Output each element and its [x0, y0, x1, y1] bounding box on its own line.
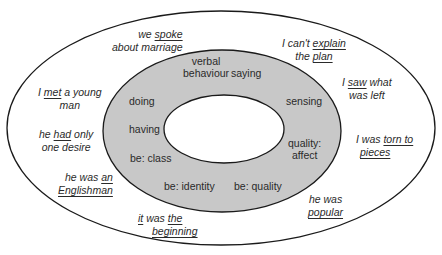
label-saying: saying [231, 67, 261, 79]
label-line: having [129, 123, 160, 135]
participant-word: beginning [152, 225, 198, 237]
process-word: torn to [383, 133, 413, 145]
label-line: sensing [286, 95, 322, 107]
label-line: doing [129, 95, 155, 107]
text: one desire [42, 141, 91, 153]
participant-word: Englishman [58, 184, 113, 196]
text: only [71, 128, 93, 140]
text: he [39, 128, 54, 140]
inner-core [164, 95, 284, 163]
label-line: saying [231, 67, 261, 79]
text: was [143, 212, 168, 224]
text: what [367, 76, 392, 88]
text: the [295, 50, 313, 62]
text: was left [349, 89, 385, 101]
label-line: be: identity [164, 180, 215, 192]
text: I was [356, 133, 383, 145]
text: about marriage [112, 41, 183, 53]
example-englishman: he was an Englishman [58, 171, 113, 197]
example-torn: I was torn to pieces [356, 133, 413, 159]
label-be-quality: be: quality [234, 180, 282, 192]
label-quality-affect: quality: affect [288, 137, 321, 161]
label-line: behaviour [183, 67, 229, 79]
label-line: affect [288, 149, 321, 161]
participant-word: plan [313, 50, 333, 62]
participant-word: the [168, 212, 183, 224]
label-be-class: be: class [130, 152, 171, 164]
process-word: met [44, 86, 62, 98]
process-word: saw [348, 76, 367, 88]
example-beginning: it was the beginning [138, 212, 198, 238]
text: we [138, 28, 154, 40]
process-word: explain [313, 37, 346, 49]
example-we-spoke: we spoke about marriage [112, 28, 183, 54]
process-word: spoke [155, 28, 183, 40]
label-line: verbal [183, 55, 229, 67]
label-line: be: quality [234, 180, 282, 192]
label-line: be: class [130, 152, 171, 164]
label-having: having [129, 123, 160, 135]
text: I can't [282, 37, 313, 49]
text: a young [61, 86, 101, 98]
participant-word: an [101, 171, 113, 183]
example-saw: I saw what was left [342, 76, 392, 102]
label-doing: doing [129, 95, 155, 107]
process-word: pieces [360, 146, 390, 158]
attribute-word: popular [308, 206, 343, 218]
text: he was [309, 193, 342, 205]
label-sensing: sensing [286, 95, 322, 107]
example-explain: I can't explain the plan [282, 37, 346, 63]
label-line: quality: [288, 137, 321, 149]
example-met: I met a young man [38, 86, 102, 112]
process-word: had [54, 128, 72, 140]
text: he was [65, 171, 101, 183]
example-had: he had only one desire [39, 128, 93, 154]
label-verbal-behaviour: verbal behaviour [183, 55, 229, 79]
example-popular: he was popular [308, 193, 343, 219]
text: man [60, 99, 80, 111]
label-be-identity: be: identity [164, 180, 215, 192]
